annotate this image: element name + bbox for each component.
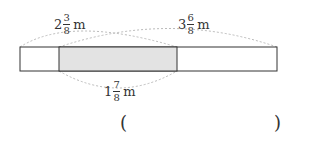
answer-open-paren: ( bbox=[120, 112, 127, 133]
right-length-label: 3 68 m bbox=[178, 13, 210, 36]
answer-blank[interactable] bbox=[132, 112, 270, 136]
fraction: 68 bbox=[187, 13, 194, 36]
overlap-segment bbox=[59, 47, 177, 71]
overlap-length-label: 1 78 m bbox=[104, 80, 136, 103]
answer-close-paren: ) bbox=[274, 112, 281, 133]
fraction: 78 bbox=[113, 80, 120, 103]
left-brace-arc bbox=[20, 31, 177, 47]
left-length-label: 2 38 m bbox=[54, 13, 86, 36]
fraction: 38 bbox=[63, 13, 70, 36]
